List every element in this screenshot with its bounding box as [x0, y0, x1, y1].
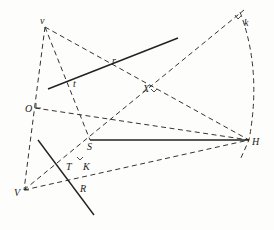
- label-H: H: [251, 136, 260, 147]
- geometry-figure: v O V S H k r t X T K R: [0, 0, 274, 230]
- label-v: v: [40, 15, 45, 26]
- dashed-line-v-S: [45, 27, 90, 140]
- label-k: k: [244, 17, 249, 28]
- label-R: R: [79, 183, 86, 194]
- label-r: r: [112, 55, 116, 66]
- diagram-canvas: v O V S H k r t X T K R: [0, 0, 274, 230]
- solid-line-TR: [38, 140, 94, 215]
- right-angle-mark-O: [36, 103, 41, 108]
- label-S: S: [87, 141, 92, 152]
- dashed-line-V-H: [24, 140, 249, 190]
- label-X: X: [142, 83, 150, 94]
- right-angle-mark-X: [151, 89, 157, 92]
- label-O: O: [25, 103, 32, 114]
- label-T: T: [66, 161, 73, 172]
- dashed-line-V-k: [24, 10, 244, 190]
- label-V: V: [14, 187, 22, 198]
- dashed-line-O-H: [35, 108, 249, 140]
- right-angle-mark-K: [77, 157, 83, 160]
- label-K: K: [82, 161, 91, 172]
- label-t: t: [73, 78, 76, 89]
